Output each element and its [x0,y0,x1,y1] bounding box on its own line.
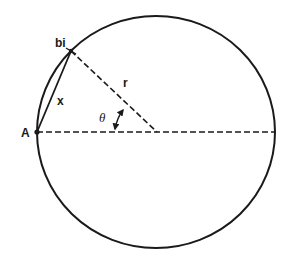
circle-diagram: A bi x r θ [0,0,291,254]
label-point-a: A [21,126,30,140]
label-chord-x: x [57,94,64,108]
radius-r-dashed-line [71,51,157,132]
label-point-bi: bi [55,36,66,50]
chord-x-line [37,51,71,132]
point-a-dot [34,129,39,134]
label-radius-r: r [123,76,128,90]
angle-theta-arc [115,110,123,129]
label-angle-theta: θ [99,110,106,125]
